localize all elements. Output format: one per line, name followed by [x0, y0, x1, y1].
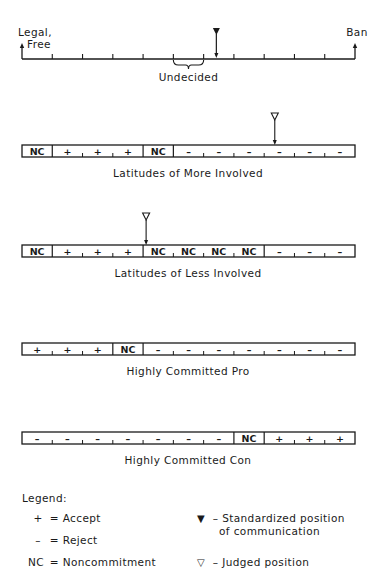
accept-symbol: +	[30, 512, 46, 525]
bar-cell-nc: NC	[242, 246, 257, 257]
arrowhead-icon	[353, 43, 357, 48]
bar-cell-nc: NC	[30, 146, 45, 157]
bar-cell-m: –	[186, 146, 191, 157]
bar-cell-m: –	[156, 344, 161, 355]
bar-title: Latitudes of Less Involved	[115, 267, 262, 279]
bar-cell-p: +	[275, 433, 283, 444]
legend-item-judged: ▽ – Judged position	[197, 556, 309, 569]
judged-position-icon	[143, 213, 150, 220]
bar-cell-m: –	[65, 433, 70, 444]
ban-label: Ban	[346, 26, 368, 38]
bar-cell-m: –	[307, 146, 312, 157]
bar-cell-nc: NC	[151, 146, 166, 157]
judged-position-icon	[271, 113, 278, 120]
bar-cell-m: –	[95, 433, 100, 444]
bar-cell-m: –	[307, 344, 312, 355]
bar-cell-nc: NC	[151, 246, 166, 257]
legend-item-standardized: ▼ – Standardized position of communicati…	[197, 512, 345, 538]
arrowhead-icon	[20, 43, 24, 48]
bar-title: Highly Committed Con	[125, 454, 252, 466]
bar-cell-m: –	[247, 344, 252, 355]
arrowhead-icon	[144, 240, 148, 245]
bar-committed-pro: +++NC–––––––Highly Committed Pro	[22, 343, 355, 377]
bar-cell-p: +	[63, 344, 71, 355]
judged-text: – Judged position	[213, 556, 310, 568]
legend-item-accept: + = Accept	[30, 512, 101, 525]
bar-cell-m: –	[216, 433, 221, 444]
bar-cell-m: –	[247, 146, 252, 157]
reject-symbol: –	[30, 534, 46, 547]
bar-cell-p: +	[124, 146, 132, 157]
noncommitment-text: = Noncommitment	[50, 556, 156, 568]
bar-less-involved: NC+++NCNCNCNC–––Latitudes of Less Involv…	[22, 213, 355, 279]
bar-title: Highly Committed Pro	[126, 365, 249, 377]
reject-text: = Reject	[50, 534, 98, 546]
bar-cell-m: –	[216, 146, 221, 157]
filled-triangle-icon: ▼	[197, 512, 209, 525]
bar-cell-p: +	[63, 146, 71, 157]
legend-item-noncommitment: NC = Noncommitment	[26, 556, 156, 569]
bar-cell-nc: NC	[30, 246, 45, 257]
standardized-text-line1: – Standardized position	[213, 512, 345, 524]
bar-cell-nc: NC	[181, 246, 196, 257]
standardized-position-icon	[213, 28, 220, 35]
bar-cell-m: –	[337, 344, 342, 355]
bar-cell-m: –	[277, 344, 282, 355]
bar-cell-m: –	[277, 146, 282, 157]
latitude-bars: NC+++NC––––––Latitudes of More InvolvedN…	[22, 113, 355, 466]
bar-committed-con: –––––––NC+++Highly Committed Con	[22, 432, 355, 466]
bar-title: Latitudes of More Involved	[113, 167, 263, 179]
arrowhead-icon	[214, 53, 218, 58]
bar-cell-nc: NC	[242, 433, 257, 444]
bar-cell-m: –	[216, 344, 221, 355]
bar-cell-m: –	[307, 246, 312, 257]
accept-text: = Accept	[50, 512, 101, 524]
bar-cell-m: –	[35, 433, 40, 444]
bar-cell-p: +	[63, 246, 71, 257]
noncommitment-symbol: NC	[26, 556, 46, 569]
bar-cell-m: –	[126, 433, 131, 444]
arrowhead-icon	[273, 140, 277, 145]
bar-cell-p: +	[336, 433, 344, 444]
bar-cell-p: +	[94, 246, 102, 257]
hollow-triangle-icon: ▽	[197, 556, 209, 569]
bar-more-involved: NC+++NC––––––Latitudes of More Involved	[22, 113, 355, 179]
bar-cell-m: –	[337, 146, 342, 157]
bar-cell-p: +	[94, 146, 102, 157]
bar-cell-m: –	[186, 344, 191, 355]
bar-cell-p: +	[124, 246, 132, 257]
legend-title: Legend:	[22, 492, 67, 505]
bar-cell-m: –	[186, 433, 191, 444]
bar-cell-nc: NC	[120, 344, 135, 355]
undecided-label: Undecided	[159, 71, 219, 83]
bar-cell-nc: NC	[211, 246, 226, 257]
bar-cell-m: –	[337, 246, 342, 257]
standardized-text-line2: of communication	[219, 525, 320, 537]
free-label: Free	[27, 38, 51, 50]
attitude-scale: Legal,FreeBanUndecided	[18, 26, 368, 83]
bar-cell-p: +	[33, 344, 41, 355]
legend-item-reject: – = Reject	[30, 534, 98, 547]
legal-label: Legal,	[18, 26, 52, 38]
bar-cell-m: –	[277, 246, 282, 257]
bar-cell-p: +	[306, 433, 314, 444]
undecided-brace-icon	[173, 60, 203, 69]
bar-cell-m: –	[156, 433, 161, 444]
bar-cell-p: +	[94, 344, 102, 355]
